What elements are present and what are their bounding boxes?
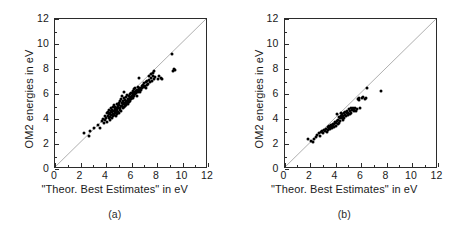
x-tick xyxy=(310,163,311,167)
data-point xyxy=(366,86,369,89)
x-tick-label: 10 xyxy=(405,169,417,181)
data-point xyxy=(379,89,382,92)
data-point xyxy=(92,126,95,129)
y-tick xyxy=(285,19,289,20)
x-tick-label: 0 xyxy=(51,169,57,181)
figure-scatter-comparison: OM2 energies in eV 024681012024681012 "T… xyxy=(0,0,459,234)
x-tick xyxy=(412,163,413,167)
x-tick xyxy=(144,165,145,167)
data-point xyxy=(137,77,140,80)
data-point xyxy=(82,132,85,135)
data-point xyxy=(144,87,147,90)
y-tick xyxy=(55,144,59,145)
y-tick xyxy=(55,132,57,133)
y-tick xyxy=(55,19,59,20)
y-tick-label: 2 xyxy=(27,137,49,149)
y-tick-label: 12 xyxy=(27,12,49,24)
x-tick xyxy=(374,165,375,167)
x-tick xyxy=(438,163,439,167)
panel-b-x-axis-title: "Theor. Best Estimates" in eV xyxy=(230,183,459,195)
x-tick xyxy=(297,165,298,167)
panel-a-x-axis-title: "Theor. Best Estimates" in eV xyxy=(0,183,230,195)
y-tick xyxy=(285,132,287,133)
x-tick xyxy=(387,163,388,167)
y-tick-label: 0 xyxy=(257,162,279,174)
y-tick-label: 6 xyxy=(257,87,279,99)
y-tick xyxy=(285,157,287,158)
data-point xyxy=(359,107,362,110)
x-tick xyxy=(119,165,120,167)
data-point xyxy=(153,69,156,72)
x-tick xyxy=(106,163,107,167)
x-tick-label: 10 xyxy=(175,169,187,181)
data-point xyxy=(170,53,173,56)
x-tick-label: 2 xyxy=(306,169,312,181)
panel-b: OM2 energies in eV 024681012024681012 "T… xyxy=(230,0,459,234)
y-tick-label: 10 xyxy=(27,37,49,49)
x-tick-label: 0 xyxy=(280,169,286,181)
y-tick xyxy=(285,69,289,70)
y-tick xyxy=(55,57,57,58)
x-tick-label: 6 xyxy=(127,169,133,181)
data-point xyxy=(173,68,176,71)
y-tick-label: 12 xyxy=(257,12,279,24)
x-tick xyxy=(170,165,171,167)
y-tick-label: 4 xyxy=(27,112,49,124)
y-tick xyxy=(285,119,289,120)
y-tick xyxy=(55,32,57,33)
y-tick xyxy=(285,44,289,45)
data-point xyxy=(135,94,138,97)
x-tick xyxy=(81,163,82,167)
data-point xyxy=(88,135,91,138)
panel-b-plot-area xyxy=(284,18,437,168)
x-tick xyxy=(348,165,349,167)
y-tick xyxy=(285,82,287,83)
data-point xyxy=(89,129,92,132)
panel-a: OM2 energies in eV 024681012024681012 "T… xyxy=(0,0,230,234)
y-tick-label: 8 xyxy=(257,62,279,74)
y-tick-label: 0 xyxy=(27,162,49,174)
x-tick xyxy=(93,165,94,167)
x-tick-label: 12 xyxy=(430,169,442,181)
y-tick xyxy=(55,82,57,83)
y-tick xyxy=(55,94,59,95)
x-tick xyxy=(132,163,133,167)
x-tick xyxy=(55,163,56,167)
data-point xyxy=(311,140,314,143)
x-tick xyxy=(361,163,362,167)
x-tick xyxy=(68,165,69,167)
data-point xyxy=(98,126,101,129)
data-point xyxy=(161,78,164,81)
x-tick xyxy=(285,163,286,167)
y-tick xyxy=(285,94,289,95)
y-tick xyxy=(285,144,289,145)
x-tick xyxy=(336,163,337,167)
data-point xyxy=(365,96,368,99)
panel-a-plot-area xyxy=(54,18,207,168)
y-tick xyxy=(55,44,59,45)
x-tick xyxy=(399,165,400,167)
x-tick xyxy=(208,163,209,167)
panel-a-caption: (a) xyxy=(0,208,230,220)
x-tick-label: 8 xyxy=(382,169,388,181)
y-tick-label: 2 xyxy=(257,137,279,149)
y-tick-label: 4 xyxy=(257,112,279,124)
x-tick-label: 12 xyxy=(201,169,213,181)
y-tick xyxy=(55,69,59,70)
y-tick-label: 8 xyxy=(27,62,49,74)
x-tick xyxy=(323,165,324,167)
x-tick-label: 8 xyxy=(153,169,159,181)
y-tick-label: 10 xyxy=(257,37,279,49)
x-tick-label: 4 xyxy=(331,169,337,181)
x-tick xyxy=(425,165,426,167)
y-tick xyxy=(55,107,57,108)
x-tick-label: 2 xyxy=(76,169,82,181)
x-tick xyxy=(183,163,184,167)
y-tick xyxy=(285,57,287,58)
x-tick xyxy=(195,165,196,167)
data-point xyxy=(318,135,321,138)
panel-b-identity-line xyxy=(285,19,436,167)
y-tick xyxy=(55,157,57,158)
x-tick-label: 4 xyxy=(102,169,108,181)
x-tick-label: 6 xyxy=(357,169,363,181)
